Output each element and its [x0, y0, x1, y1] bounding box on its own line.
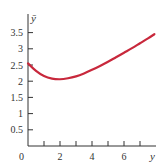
x-tick-label: 6: [122, 151, 127, 162]
y-tick-label: 3: [18, 43, 23, 54]
y-tick-label: 0.5: [11, 124, 24, 135]
x-tick-label: 2: [58, 151, 63, 162]
x-axis-label: y: [149, 150, 155, 162]
axes: [28, 14, 156, 146]
y-tick-label: 1: [18, 108, 23, 119]
ticks: [28, 33, 140, 146]
data-curve: [28, 34, 154, 79]
y-tick-label: 2: [18, 76, 23, 87]
origin-label: 0: [19, 151, 24, 162]
x-tick-label: 4: [90, 151, 95, 162]
y-tick-label: 1.5: [11, 92, 24, 103]
y-tick-label: 2.5: [11, 60, 24, 71]
y-axis-label: ȳ: [30, 12, 37, 24]
y-tick-label: 3.5: [11, 27, 24, 38]
chart: 2460.511.522.533.5 ȳ y 0: [0, 0, 167, 165]
